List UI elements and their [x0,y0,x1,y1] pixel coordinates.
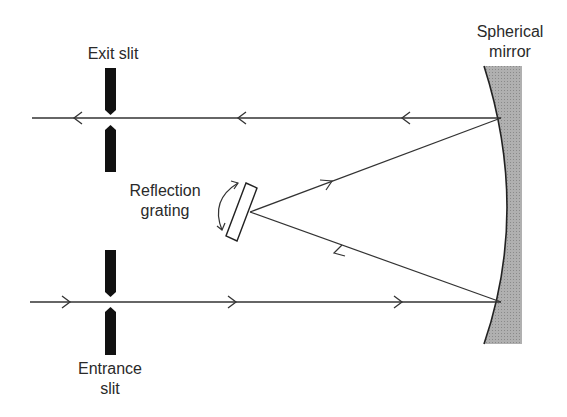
reflection-grating [226,183,257,241]
mirror-label-line2: mirror [460,42,560,62]
exit-slit [105,68,116,172]
exit-slit-label: Exit slit [68,44,158,64]
entrance-label-line2: slit [60,379,160,399]
entrance-label-line1: Entrance [60,359,160,379]
entrance-beam [30,296,501,308]
grating-label-line1: Reflection [115,181,215,201]
grating-beams [250,118,501,302]
mirror-label-line1: Spherical [460,22,560,42]
entrance-slit-label: Entrance slit [60,359,160,399]
grating-label-line2: grating [115,201,215,221]
exit-beam [32,112,501,124]
reflection-grating-label: Reflection grating [115,181,215,221]
spherical-mirror-label: Spherical mirror [460,22,560,62]
